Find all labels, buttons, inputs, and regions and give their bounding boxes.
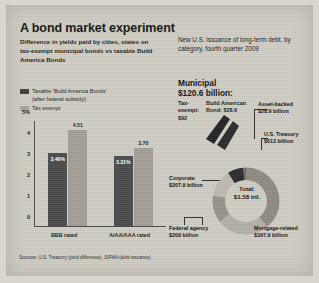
x-axis-labels: BBB rated A/AA/AAA rated [35, 232, 166, 238]
bar-value-bbb-taxexempt: 4.51 [73, 122, 83, 128]
source-note: Sources: U.S. Treasury (yield difference… [19, 255, 151, 260]
leader-federal-v [202, 217, 203, 225]
total-label-text: Total: [239, 185, 255, 192]
callout-corporate: Corporate $207.9 billion [169, 175, 203, 190]
infographic-page: A bond market experiment Difference in y… [0, 0, 319, 283]
bar-aaa-bab: 3.31% [114, 156, 133, 226]
bar-value-aaa-bab: 3.31% [116, 159, 131, 165]
municipal-heading: Municipal [178, 78, 216, 88]
x-label-bbb: BBB rated [51, 232, 77, 238]
donut-total-label: Total: $1.58 tril. [224, 185, 270, 201]
municipal-amount: $120.6 billion: [178, 88, 233, 98]
leader-federal-drop [184, 217, 185, 225]
bar-value-bbb-bab: 3.46% [50, 156, 65, 162]
deck-text: Difference in yields paid by cities, sta… [20, 38, 156, 65]
callout-federal-agency: Federal agency $209 billion [169, 225, 208, 240]
callout-asset-backed: Asset-backed $28.9 billion [258, 101, 293, 116]
bar-group-aaa: 3.31% 3.70 [114, 148, 153, 226]
bar-bbb-taxexempt: 4.51 [68, 130, 87, 226]
municipal-exploded-wedge-icon [202, 105, 254, 153]
municipal-heading-block: Municipal $120.6 billion: [178, 78, 233, 99]
legend-sublabel-bab: (after federal subsidy) [32, 96, 107, 104]
callout-us-treasury: U.S. Treasury $613 billion [264, 131, 298, 146]
bar-group-bbb: 3.46% 4.51 [48, 130, 87, 226]
bar-group-container: 3.46% 4.51 3.31% 3.70 [35, 120, 166, 226]
leader-asset-backed-v [254, 109, 255, 139]
legend-item-bab: Taxable 'Build America Bonds' (after fed… [20, 88, 170, 103]
y-tick-1: 1 [18, 193, 30, 199]
y-tick-0: 0 [18, 214, 30, 220]
legend-swatch-dark-icon [20, 89, 29, 94]
paper-background: A bond market experiment Difference in y… [6, 5, 313, 276]
callout-asset-backed-value: $28.9 billion [258, 108, 289, 114]
legend-label-bab: Taxable 'Build America Bonds' [32, 88, 107, 94]
callout-us-treasury-value: $613 billion [264, 138, 293, 144]
x-axis-line [34, 226, 166, 227]
bar-aaa-taxexempt: 3.70 [134, 148, 153, 226]
bar-value-aaa-taxexempt: 3.70 [138, 140, 148, 146]
municipal-tax-exempt: Tax-exempt: $92 [178, 100, 200, 122]
x-label-aaa: A/AA/AAA rated [109, 232, 150, 238]
y-tick-4: 4 [18, 130, 30, 136]
right-panel-header: New U.S. issuance of long-term debt, by … [178, 35, 316, 54]
total-value-text: $1.58 tril. [234, 193, 260, 200]
callout-mortgage-related: Mortgage-related $397.9 billion [254, 225, 298, 240]
callout-mortgage-related-value: $397.9 billion [254, 232, 288, 238]
municipal-tax-exempt-value: $92 [178, 115, 187, 121]
callout-mortgage-related-label: Mortgage-related [254, 225, 298, 231]
callout-asset-backed-label: Asset-backed [258, 101, 293, 107]
leader-treasury-v [261, 138, 262, 150]
page-title: A bond market experiment [20, 21, 175, 35]
callout-corporate-value: $207.9 billion [169, 182, 203, 188]
callout-corporate-label: Corporate [169, 175, 195, 181]
bar-chart: 5% 4 3 2 1 0 3.46% 4.51 3.31% [18, 109, 170, 244]
callout-us-treasury-label: U.S. Treasury [264, 131, 298, 137]
municipal-tax-exempt-label: Tax-exempt: [178, 100, 199, 113]
y-tick-3: 3 [18, 151, 30, 157]
bar-bbb-bab: 3.46% [48, 153, 67, 226]
y-tick-5: 5% [18, 109, 30, 115]
y-tick-2: 2 [18, 172, 30, 178]
callout-federal-agency-label: Federal agency [169, 225, 208, 231]
callout-federal-agency-value: $209 billion [169, 232, 198, 238]
leader-federal-h [184, 217, 203, 218]
